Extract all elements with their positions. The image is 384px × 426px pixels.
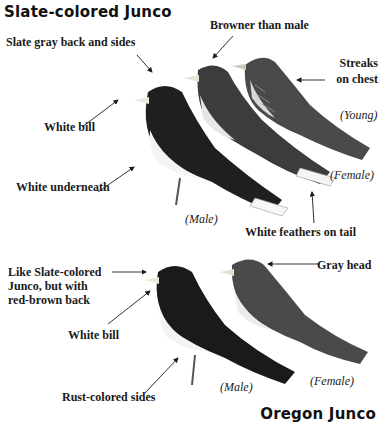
label-white-bill-oregon: White bill (68, 328, 119, 342)
label-streaks-line2: on chest (336, 72, 378, 86)
label-female-oregon: (Female) (310, 374, 354, 389)
label-female: (Female) (330, 168, 374, 183)
oregon-junco-title: Oregon Junco (260, 405, 376, 423)
label-white-underneath: White underneath (16, 180, 110, 194)
label-male: (Male) (185, 212, 218, 227)
label-white-bill: White bill (44, 120, 95, 134)
label-browner-than-male: Browner than male (210, 18, 309, 32)
label-gray-head: Gray head (317, 258, 371, 272)
label-male-oregon: (Male) (220, 380, 253, 395)
label-young: (Young) (340, 108, 378, 123)
label-like-slate-line2: Junco, but with (8, 279, 88, 293)
label-white-tail-feathers: White feathers on tail (245, 225, 356, 239)
label-like-slate-line1: Like Slate-colored (8, 265, 101, 279)
label-streaks-line1: Streaks (340, 56, 378, 70)
label-slate-gray-back: Slate gray back and sides (6, 35, 135, 49)
label-rust-colored-sides: Rust-colored sides (62, 390, 155, 404)
slate-colored-junco-title: Slate-colored Junco (4, 3, 172, 21)
label-like-slate-line3: red-brown back (8, 293, 90, 307)
